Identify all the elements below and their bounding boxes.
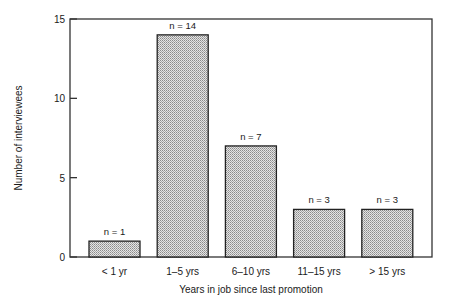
y-axis-title: Number of interviewees [13, 85, 24, 190]
bar-data-label: n = 3 [308, 194, 329, 205]
bar [362, 209, 413, 257]
bar-data-label: n = 3 [377, 194, 398, 205]
y-tick-label: 10 [54, 93, 66, 104]
x-category-label: < 1 yr [102, 266, 128, 277]
bar [157, 35, 208, 257]
bar-chart: 051015 n = 1< 1 yrn = 141–5 yrsn = 76–10… [0, 0, 452, 307]
x-category-label: 1–5 yrs [166, 266, 199, 277]
x-category-label: 6–10 yrs [232, 266, 270, 277]
y-axis-ticks: 051015 [54, 14, 77, 263]
x-category-label: 11–15 yrs [298, 266, 341, 277]
bar [89, 241, 140, 257]
bar [225, 146, 276, 257]
x-category-label: > 15 yrs [369, 266, 405, 277]
x-axis-title: Years in job since last promotion [179, 284, 323, 295]
y-tick-label: 0 [59, 252, 65, 263]
bar [294, 209, 345, 257]
y-tick-label: 15 [54, 14, 66, 25]
bars: n = 1< 1 yrn = 141–5 yrsn = 76–10 yrsn =… [89, 20, 413, 277]
bar-data-label: n = 14 [169, 20, 196, 31]
y-tick-label: 5 [59, 173, 65, 184]
bar-data-label: n = 7 [240, 131, 261, 142]
bar-data-label: n = 1 [104, 226, 125, 237]
